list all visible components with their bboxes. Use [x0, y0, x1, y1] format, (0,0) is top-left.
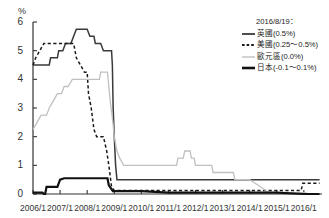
legend-label: 歐元區(0.0%): [257, 53, 303, 61]
y-axis-tick-label: 3: [9, 102, 23, 113]
y-axis-tick-label: 4: [9, 73, 23, 84]
y-axis-tick-label: 1: [9, 159, 23, 170]
policy-rate-chart: % 0123456 2006/12007/12008/12009/12010/1…: [0, 0, 329, 218]
x-axis-tick-label: 2016/1: [286, 203, 322, 213]
y-axis-tick-label: 0: [9, 188, 23, 199]
series-line-japan: [33, 178, 320, 194]
legend-swatch-eurozone: [242, 53, 255, 61]
legend-swatch-uk: [242, 30, 255, 38]
legend-entry: 英國(0.5%): [242, 30, 329, 38]
legend-entry-list: 英國(0.5%)美國(0.25～0.5%)歐元區(0.0%)日本(-0.1～0.…: [242, 30, 329, 73]
y-axis-tick-label: 2: [9, 131, 23, 142]
legend-swatch-japan: [242, 64, 255, 72]
legend-entry: 日本(-0.1～0.1%): [242, 64, 329, 72]
legend-swatch-us: [242, 41, 255, 49]
legend-date-label: 2016/8/19：: [256, 18, 329, 26]
legend-label: 美國(0.25～0.5%): [257, 41, 318, 49]
series-line-eurozone: [33, 72, 320, 194]
legend-label: 英國(0.5%): [257, 30, 295, 38]
y-axis-tick-label: 5: [9, 45, 23, 56]
y-axis-tick-label: 6: [9, 16, 23, 27]
legend-label: 日本(-0.1～0.1%): [257, 64, 316, 72]
legend-entry: 美國(0.25～0.5%): [242, 41, 329, 49]
chart-legend: 2016/8/19： 英國(0.5%)美國(0.25～0.5%)歐元區(0.0%…: [242, 18, 329, 76]
legend-entry: 歐元區(0.0%): [242, 53, 329, 61]
